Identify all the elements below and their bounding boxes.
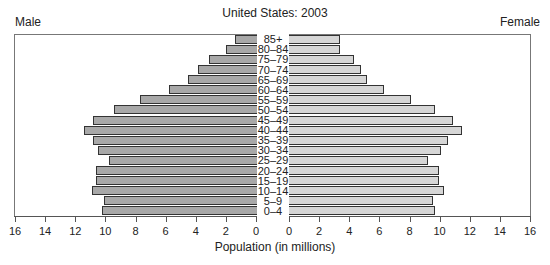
female-bar: [289, 186, 444, 195]
male-bar: [93, 116, 257, 125]
female-label: Female: [500, 15, 540, 29]
x-tick: [470, 217, 471, 222]
female-bar: [289, 35, 340, 44]
age-group-label: 45–49: [257, 115, 289, 125]
age-group-label: 80–84: [257, 44, 289, 54]
age-group-label: 75–79: [257, 54, 289, 64]
x-tick: [349, 217, 350, 222]
male-bar: [109, 156, 257, 165]
female-bar: [289, 105, 435, 114]
male-bar: [209, 55, 257, 64]
x-tick: [226, 217, 227, 222]
age-group-label: 65–69: [257, 75, 289, 85]
age-group-label: 60–64: [257, 85, 289, 95]
male-label: Male: [15, 15, 41, 29]
female-bar: [289, 136, 448, 145]
x-tick: [256, 217, 257, 222]
x-tick: [379, 217, 380, 222]
age-group-label: 10–14: [257, 186, 289, 196]
age-group-label: 25–29: [257, 155, 289, 165]
age-group-label: 30–34: [257, 145, 289, 155]
female-bar: [289, 126, 462, 135]
x-tick: [440, 217, 441, 222]
female-bar: [289, 55, 354, 64]
x-tick-label: 6: [156, 225, 176, 237]
x-tick-label: 0: [246, 225, 266, 237]
male-bar: [98, 146, 257, 155]
chart-title: United States: 2003: [0, 6, 550, 20]
x-tick-label: 12: [460, 225, 480, 237]
age-group-label: 70–74: [257, 65, 289, 75]
female-bar: [289, 75, 367, 84]
x-tick-label: 8: [126, 225, 146, 237]
x-axis-label: Population (in millions): [0, 240, 550, 254]
male-bar: [96, 176, 257, 185]
x-tick: [75, 217, 76, 222]
male-bar: [188, 75, 257, 84]
male-bar: [92, 186, 257, 195]
age-group-label: 50–54: [257, 105, 289, 115]
male-bar: [235, 35, 257, 44]
x-tick-label: 10: [430, 225, 450, 237]
female-bar: [289, 146, 441, 155]
male-bar: [96, 166, 257, 175]
age-group-label: 35–39: [257, 135, 289, 145]
x-tick-label: 8: [400, 225, 420, 237]
x-tick-label: 16: [5, 225, 25, 237]
x-tick-label: 2: [309, 225, 329, 237]
x-tick: [410, 217, 411, 222]
female-bar: [289, 196, 433, 205]
x-tick: [319, 217, 320, 222]
x-tick-label: 14: [35, 225, 55, 237]
female-bar: [289, 176, 439, 185]
age-group-label: 5–9: [257, 196, 289, 206]
x-tick: [45, 217, 46, 222]
age-group-label: 0–4: [257, 206, 289, 216]
x-tick-label: 16: [520, 225, 540, 237]
female-bar: [289, 116, 453, 125]
female-bar: [289, 166, 439, 175]
age-group-label: 55–59: [257, 95, 289, 105]
x-tick-label: 2: [216, 225, 236, 237]
male-bar: [226, 45, 257, 54]
male-bar: [169, 85, 257, 94]
x-tick-label: 12: [65, 225, 85, 237]
male-bar: [198, 65, 257, 74]
female-bar: [289, 85, 384, 94]
male-bar: [84, 126, 257, 135]
female-bar: [289, 45, 340, 54]
x-tick: [500, 217, 501, 222]
x-tick: [530, 217, 531, 222]
x-tick: [196, 217, 197, 222]
male-bar: [104, 196, 257, 205]
male-bar: [93, 136, 257, 145]
x-tick-label: 10: [95, 225, 115, 237]
x-tick-label: 0: [279, 225, 299, 237]
age-group-label: 15–19: [257, 176, 289, 186]
x-tick: [15, 217, 16, 222]
x-tick: [289, 217, 290, 222]
female-bar: [289, 65, 361, 74]
age-group-label: 40–44: [257, 125, 289, 135]
female-bar: [289, 156, 428, 165]
x-tick: [136, 217, 137, 222]
male-bar: [114, 105, 257, 114]
x-tick-label: 4: [186, 225, 206, 237]
age-group-label: 20–24: [257, 166, 289, 176]
age-group-label: 85+: [257, 34, 289, 44]
female-bar: [289, 206, 435, 215]
x-tick: [105, 217, 106, 222]
x-tick: [166, 217, 167, 222]
male-bar: [102, 206, 257, 215]
x-tick-label: 4: [339, 225, 359, 237]
x-tick-label: 6: [369, 225, 389, 237]
x-tick-label: 14: [490, 225, 510, 237]
male-bar: [140, 95, 257, 104]
female-bar: [289, 95, 411, 104]
